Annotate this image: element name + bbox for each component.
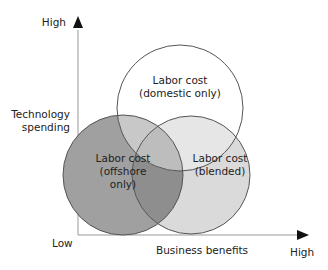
label-line: Labor cost (180, 152, 260, 165)
venn-diagram (0, 0, 328, 270)
y-axis-label: Technology spending (0, 108, 70, 134)
y-axis-label-line: Technology (0, 108, 70, 121)
label-line: only) (83, 178, 163, 191)
label-line: (offshore (83, 165, 163, 178)
label-line: (domestic only) (130, 87, 230, 100)
x-axis-arrow-icon (297, 230, 309, 240)
origin-low-label: Low (52, 237, 73, 250)
y-axis-high-label: High (30, 16, 66, 29)
label-line: Labor cost (83, 152, 163, 165)
x-axis-label: Business benefits (156, 244, 248, 257)
label-line: (blended) (180, 165, 260, 178)
circle-offshore-label: Labor cost (offshore only) (83, 152, 163, 191)
y-axis-label-line: spending (0, 121, 70, 134)
circle-domestic-label: Labor cost (domestic only) (130, 74, 230, 100)
x-axis-high-label: High (290, 246, 314, 259)
circle-blended-label: Labor cost (blended) (180, 152, 260, 178)
y-axis-arrow-icon (73, 16, 83, 28)
label-line: Labor cost (130, 74, 230, 87)
